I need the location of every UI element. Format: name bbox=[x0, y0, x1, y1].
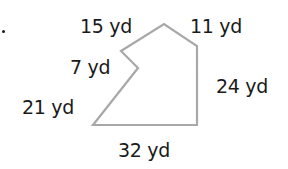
label-right-side: 24 yd bbox=[216, 77, 268, 96]
label-lower-left-side: 21 yd bbox=[22, 98, 74, 117]
label-notch-side: 7 yd bbox=[70, 58, 110, 77]
label-top-right-side: 11 yd bbox=[190, 17, 242, 36]
label-bottom-side: 32 yd bbox=[118, 141, 170, 160]
polygon-diagram: 15 yd 11 yd 7 yd 24 yd 21 yd 32 yd bbox=[0, 0, 288, 169]
label-top-left-side: 15 yd bbox=[80, 17, 132, 36]
